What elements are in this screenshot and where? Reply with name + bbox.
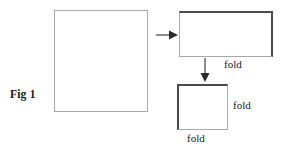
- fold-label-horizontal-bottom: fold: [187, 132, 205, 145]
- arrow-down-icon: [198, 58, 212, 83]
- arrow-right-icon: [156, 28, 180, 42]
- twice-folded-sheet: [177, 84, 228, 130]
- figure-canvas: Fig 1 fold fold fold: [0, 0, 285, 151]
- fold-label-horizontal-top: fold: [224, 58, 242, 71]
- once-folded-sheet: [179, 11, 273, 57]
- fold-label-vertical-right: fold: [233, 99, 251, 112]
- unfolded-sheet: [54, 10, 148, 112]
- figure-caption: Fig 1: [10, 87, 36, 101]
